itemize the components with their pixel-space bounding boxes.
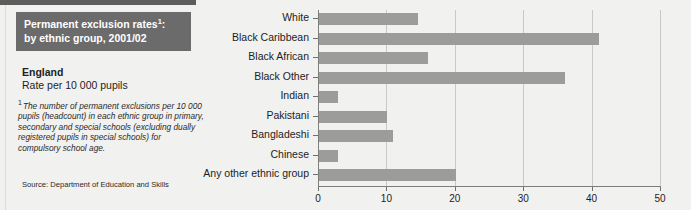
y-axis-tick [313, 38, 318, 39]
category-label: Any other ethnic group [203, 167, 309, 179]
bar [319, 52, 428, 64]
bar [319, 13, 418, 25]
bar-row: Bangladeshi [318, 127, 660, 146]
source-note: Source: Department of Education and Skil… [22, 180, 169, 189]
bar [319, 169, 456, 181]
category-label-slot: Black Caribbean [200, 30, 318, 49]
chart-area: 01020304050WhiteBlack CaribbeanBlack Afr… [210, 0, 691, 210]
bar [319, 130, 393, 142]
footnote-text: The number of permanent exclusions per 1… [18, 101, 204, 153]
category-label-slot: Black African [200, 49, 318, 68]
x-axis-tick-label: 50 [654, 193, 665, 204]
category-label: Pakistani [266, 109, 309, 121]
y-axis-tick [313, 174, 318, 175]
category-label: Black Caribbean [232, 31, 309, 43]
category-label: Black Other [254, 70, 309, 82]
category-label: Bangladeshi [251, 128, 309, 140]
bar [319, 33, 599, 45]
bar-row: Pakistani [318, 108, 660, 127]
category-label: White [282, 11, 309, 23]
figure-panel: Permanent exclusion rates1: by ethnic gr… [0, 0, 691, 210]
footnote-marker: 1 [18, 99, 22, 106]
x-axis-tick [455, 187, 456, 191]
x-axis-tick [318, 187, 319, 191]
title-colon: : [162, 18, 166, 30]
rate-unit-label: Rate per 10 000 pupils [22, 79, 128, 92]
category-label: Chinese [270, 148, 309, 160]
plot-region: 01020304050WhiteBlack CaribbeanBlack Afr… [318, 10, 660, 186]
category-label-slot: Bangladeshi [200, 127, 318, 146]
y-axis-tick [313, 18, 318, 19]
category-label-slot: Pakistani [200, 108, 318, 127]
y-axis-tick [313, 116, 318, 117]
x-axis-line [318, 186, 661, 187]
x-axis-tick-label: 40 [586, 193, 597, 204]
bar-row: Indian [318, 88, 660, 107]
bar-row: Any other ethnic group [318, 166, 660, 185]
y-axis-tick [313, 155, 318, 156]
x-axis-tick-label: 20 [449, 193, 460, 204]
caption-panel: Permanent exclusion rates1: by ethnic gr… [0, 0, 210, 210]
x-axis-tick-label: 30 [518, 193, 529, 204]
x-gridline [660, 10, 661, 186]
category-label-slot: Indian [200, 88, 318, 107]
y-axis-tick [313, 57, 318, 58]
x-axis-tick [523, 187, 524, 191]
category-label-slot: Black Other [200, 69, 318, 88]
bar-row: Black Caribbean [318, 30, 660, 49]
bar-row: Chinese [318, 147, 660, 166]
footnote: 1The number of permanent exclusions per … [18, 101, 204, 153]
category-label: Black African [248, 50, 309, 62]
y-axis-tick [313, 96, 318, 97]
x-axis-tick-label: 10 [381, 193, 392, 204]
bar-row: White [318, 10, 660, 29]
bar [319, 111, 387, 123]
category-label-slot: Any other ethnic group [200, 166, 318, 185]
chart-title-box: Permanent exclusion rates1: by ethnic gr… [16, 12, 191, 51]
chart-title-line-2: by ethnic group, 2001/02 [24, 31, 183, 45]
bar [319, 72, 565, 84]
chart-title-line-1: Permanent exclusion rates1: [24, 17, 183, 31]
bar [319, 91, 338, 103]
bar [319, 150, 338, 162]
x-axis-tick [660, 187, 661, 191]
x-axis-tick [386, 187, 387, 191]
x-axis-tick-label: 0 [315, 193, 321, 204]
category-label-slot: White [200, 10, 318, 29]
chart-title-text-1: Permanent exclusion rates [24, 18, 158, 30]
region-label: England [22, 66, 63, 79]
y-axis-tick [313, 77, 318, 78]
y-axis-tick [313, 135, 318, 136]
x-axis-tick [592, 187, 593, 191]
bar-row: Black Other [318, 69, 660, 88]
bar-row: Black African [318, 49, 660, 68]
category-label-slot: Chinese [200, 147, 318, 166]
category-label: Indian [280, 89, 309, 101]
